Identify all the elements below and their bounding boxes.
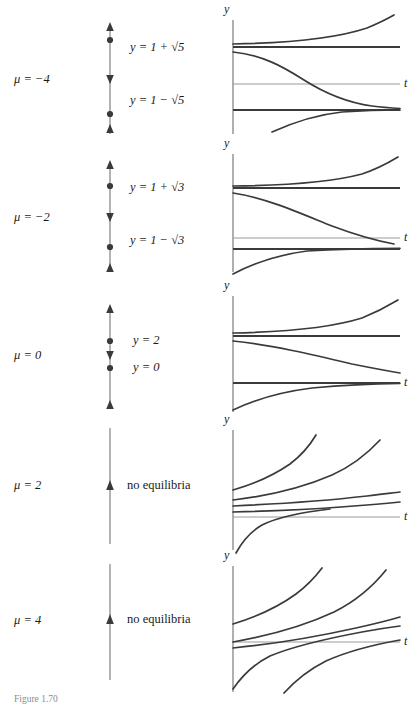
solution-plot: y t: [222, 420, 409, 555]
panel-mu-0: μ = 0 y = 2 y = 0 y t: [0, 288, 409, 414]
phase-dot-upper: [107, 183, 113, 189]
phase-line: [96, 556, 124, 690]
t-axis-label: t: [404, 509, 407, 524]
solution-curve-5: [236, 509, 330, 553]
t-axis-label: t: [404, 76, 407, 91]
solution-plot: y t: [222, 556, 409, 696]
panel-mu-minus-4: μ = −4 y = 1 + √5 y = 1 − √5: [0, 10, 409, 140]
solution-plot: y t: [222, 288, 409, 418]
solution-plot: y t: [222, 10, 409, 145]
phase-dot-upper: [107, 338, 113, 344]
y-axis-label: y: [224, 2, 229, 17]
phase-arrow-up-middle: [106, 614, 114, 624]
solution-curve-below-lower: [233, 248, 400, 274]
equilibrium-label-lower: y = 1 − √3: [130, 233, 184, 248]
y-axis-label: y: [224, 278, 229, 293]
phase-arrow-up-bottom: [106, 124, 114, 133]
panel-mu-4: μ = 4 no equilibria y t: [0, 556, 409, 690]
solution-curve-between: [233, 193, 394, 244]
solution-curve-1: [233, 435, 316, 490]
solution-curve-between: [233, 341, 400, 373]
y-axis-label: y: [224, 548, 229, 563]
equilibrium-label-upper: y = 2: [133, 333, 159, 348]
phase-arrow-up-bottom: [106, 263, 114, 272]
phase-arrow-down-middle: [106, 351, 114, 360]
figure-caption: Figure 1.70: [14, 694, 58, 704]
phase-arrow-down-middle: [106, 75, 114, 84]
phase-line: [96, 420, 124, 550]
t-axis-label: t: [404, 634, 407, 649]
t-axis-label: t: [404, 375, 407, 390]
y-axis-label: y: [224, 412, 229, 427]
solution-curve-3: [233, 617, 400, 648]
solution-curve-5: [284, 640, 400, 693]
solution-curve-1: [233, 568, 322, 624]
solution-curve-below-lower: [233, 383, 400, 410]
panel-mu-2: μ = 2 no equilibria y t: [0, 420, 409, 550]
solution-curve-between: [233, 52, 400, 109]
solution-curve-below-lower: [272, 110, 400, 132]
mu-label: μ = 2: [14, 478, 90, 493]
phase-dot-lower: [107, 365, 113, 371]
y-axis-label: y: [224, 136, 229, 151]
equilibrium-label-lower: y = 0: [133, 360, 159, 375]
figure-1-70: μ = −4 y = 1 + √5 y = 1 − √5: [0, 0, 409, 704]
equilibrium-label-upper: y = 1 + √5: [130, 40, 184, 55]
phase-dot-upper: [107, 37, 113, 43]
phase-arrow-up-middle: [106, 480, 114, 490]
no-equilibria-label: no equilibria: [127, 478, 191, 493]
mu-label: μ = 0: [14, 348, 90, 363]
phase-line: [96, 10, 124, 140]
mu-label: μ = −2: [14, 210, 90, 225]
no-equilibria-label: no equilibria: [127, 612, 191, 627]
phase-arrow-up-top: [106, 22, 114, 31]
equilibrium-label-upper: y = 1 + √3: [130, 180, 184, 195]
equilibrium-label-lower: y = 1 − √5: [130, 93, 184, 108]
solution-curve-above-upper: [233, 157, 398, 186]
phase-dot-lower: [107, 244, 113, 250]
solution-curve-above-upper: [233, 15, 394, 44]
mu-label: μ = −4: [14, 72, 90, 87]
t-axis-label: t: [404, 230, 407, 245]
phase-arrow-up-bottom: [106, 400, 114, 409]
panel-mu-minus-2: μ = −2 y = 1 + √3 y = 1 − √3: [0, 148, 409, 278]
phase-arrow-up-top: [106, 160, 114, 169]
phase-dot-lower: [107, 111, 113, 117]
solution-curve-above-upper: [233, 300, 398, 333]
mu-label: μ = 4: [14, 613, 90, 628]
phase-line: [96, 288, 124, 414]
phase-line: [96, 148, 124, 278]
phase-arrow-up-top: [106, 304, 114, 313]
solution-plot: y t: [222, 148, 409, 283]
phase-arrow-down-middle: [106, 213, 114, 222]
